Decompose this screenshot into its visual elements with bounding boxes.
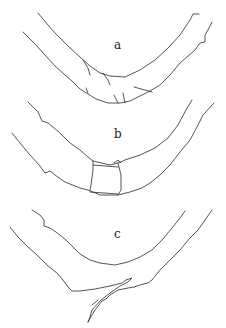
panel-c-drawing: [10, 210, 212, 322]
panel-label-b: b: [114, 127, 122, 141]
panel-b-drawing: [12, 100, 214, 195]
panel-label-a: a: [114, 38, 121, 52]
line-drawing: [0, 0, 226, 328]
panel-a-drawing: [23, 13, 212, 103]
panel-label-c: c: [114, 227, 121, 241]
